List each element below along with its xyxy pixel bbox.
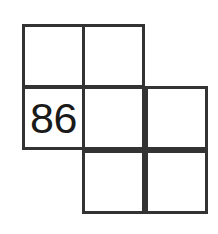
grid-cell-r1c0[interactable]: 86 [22,86,85,150]
cell-value-r2c2 [151,153,202,211]
grid-cell-r1c1[interactable] [82,86,145,150]
grid-cell-r2c2[interactable] [145,150,208,214]
grid-cell-r1c2[interactable] [145,86,208,150]
cell-value-r0c0 [28,27,79,85]
cell-value-r1c0: 86 [28,89,79,147]
cell-value-r2c1 [88,153,139,211]
cell-value-r1c2 [151,89,202,147]
grid-cell-r0c0[interactable] [22,24,85,88]
cell-value-r1c1 [88,89,139,147]
cell-value-r0c1 [88,27,139,85]
grid-cell-r2c1[interactable] [82,150,145,214]
puzzle-figure: 86 [0,0,218,234]
grid-cell-r0c1[interactable] [82,24,145,88]
